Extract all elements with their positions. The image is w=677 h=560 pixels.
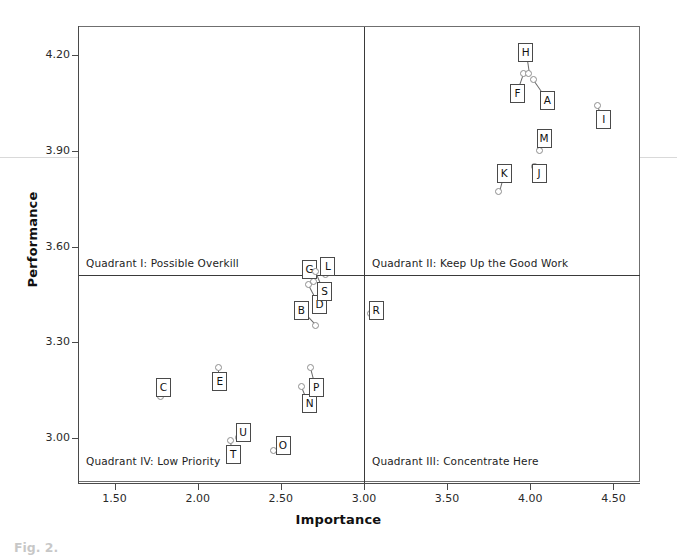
importance-performance-matrix-figure: 1.502.002.503.003.504.004.504.203.903.60… xyxy=(0,0,677,560)
plot-area xyxy=(78,26,640,482)
y-axis-tick xyxy=(72,342,78,343)
x-axis-tick-label: 1.50 xyxy=(92,492,138,505)
x-axis-tick xyxy=(115,484,116,490)
y-axis-title: Performance xyxy=(25,160,40,320)
quadrant-vertical-divider xyxy=(364,27,365,483)
data-point-label-j: J xyxy=(532,164,547,183)
data-point-s[interactable] xyxy=(312,268,319,275)
figure-caption: Fig. 2. xyxy=(14,540,58,555)
x-axis-title: Importance xyxy=(0,512,677,527)
data-point-label-f: F xyxy=(510,84,525,103)
x-axis-tick-label: 2.00 xyxy=(175,492,221,505)
data-point-label-u: U xyxy=(236,423,251,442)
x-axis-tick xyxy=(281,484,282,490)
y-axis-tick-label: 3.90 xyxy=(0,144,70,157)
x-axis-tick-label: 4.00 xyxy=(507,492,553,505)
y-axis-tick xyxy=(72,55,78,56)
data-point-label-e: E xyxy=(212,372,227,391)
quadrant-label-iv: Quadrant IV: Low Priority xyxy=(86,455,220,467)
quadrant-label-iii: Quadrant III: Concentrate Here xyxy=(372,455,539,467)
data-point-label-r: R xyxy=(369,301,384,320)
y-axis-tick xyxy=(72,438,78,439)
data-point-label-t: T xyxy=(226,445,241,464)
data-point-label-c: C xyxy=(156,378,171,397)
data-point-a[interactable] xyxy=(530,76,537,83)
x-axis-tick xyxy=(447,484,448,490)
x-axis-line xyxy=(78,483,640,484)
data-point-h[interactable] xyxy=(525,70,532,77)
quadrant-horizontal-divider xyxy=(79,275,640,276)
data-point-label-a: A xyxy=(540,91,555,110)
data-point-k[interactable] xyxy=(495,188,502,195)
x-axis-tick xyxy=(613,484,614,490)
quadrant-label-ii: Quadrant II: Keep Up the Good Work xyxy=(372,257,568,269)
data-point-label-k: K xyxy=(497,164,512,183)
data-point-p[interactable] xyxy=(307,364,314,371)
x-axis-tick xyxy=(364,484,365,490)
x-axis-tick-label: 3.50 xyxy=(424,492,470,505)
data-point-label-s: S xyxy=(317,282,332,301)
data-point-label-m: M xyxy=(537,129,552,148)
x-axis-tick-label: 4.50 xyxy=(590,492,636,505)
y-axis-tick-label: 4.20 xyxy=(0,48,70,61)
y-axis-tick-label: 3.30 xyxy=(0,335,70,348)
x-axis-tick-label: 2.50 xyxy=(258,492,304,505)
data-point-label-l: L xyxy=(320,257,335,276)
quadrant-label-i: Quadrant I: Possible Overkill xyxy=(86,257,239,269)
y-axis-tick-label: 3.00 xyxy=(0,431,70,444)
data-point-label-i: I xyxy=(596,110,611,129)
y-axis-line xyxy=(78,26,79,484)
x-axis-tick xyxy=(530,484,531,490)
y-axis-tick xyxy=(72,151,78,152)
data-point-label-o: O xyxy=(276,436,291,455)
data-point-label-h: H xyxy=(518,43,533,62)
data-point-label-p: P xyxy=(309,378,324,397)
x-axis-tick-label: 3.00 xyxy=(341,492,387,505)
data-point-label-b: B xyxy=(294,301,309,320)
x-axis-tick xyxy=(198,484,199,490)
y-axis-tick xyxy=(72,247,78,248)
